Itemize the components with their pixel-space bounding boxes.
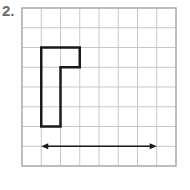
arrow-head-right: [150, 143, 157, 149]
arrow-head-left: [41, 143, 48, 149]
grid-figure: [0, 0, 190, 190]
grid-lines: [22, 8, 176, 166]
